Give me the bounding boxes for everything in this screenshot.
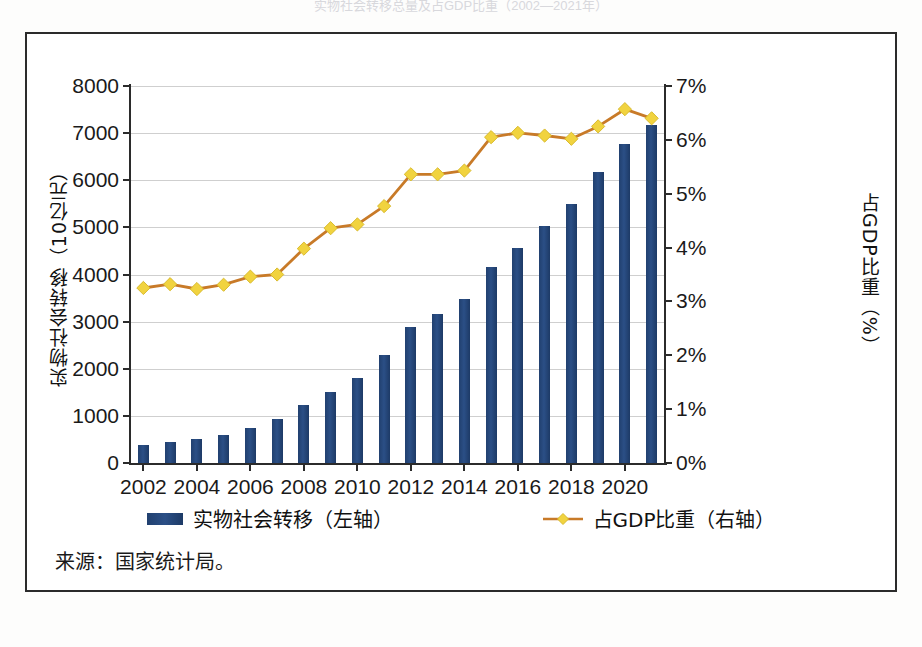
bar [272,419,283,463]
bar [325,392,336,463]
right-axis-label: 0% [676,451,706,475]
x-axis-tick [624,463,626,471]
left-axis-title: 实物社会转移（10亿元） [45,86,71,463]
gridline [130,275,665,276]
bar-swatch-icon [147,513,183,525]
right-axis-spine [664,84,666,464]
left-axis-title-text: 实物社会转移（10亿元） [45,161,72,387]
gridline [130,416,665,417]
legend-item-line: 占GDP比重（右轴） [543,504,776,533]
gridline [130,322,665,323]
right-axis-title-text: 占GDP比重（%） [857,193,884,356]
left-axis-label: 6000 [72,168,119,192]
left-axis-tick [123,226,130,228]
right-axis-tick [665,193,672,195]
bar [165,442,176,463]
x-axis-tick [356,463,358,471]
gridline [130,369,665,370]
x-axis-label: 2020 [602,475,649,499]
left-axis-label: 5000 [72,215,119,239]
right-axis-label: 6% [676,128,706,152]
bottom-axis-spine [129,463,667,465]
bar [138,445,149,463]
left-axis-tick [123,274,130,276]
left-axis-tick [123,179,130,181]
right-axis-tick [665,354,672,356]
left-axis-label: 7000 [72,121,119,145]
left-axis-label: 1000 [72,404,119,428]
x-axis-label: 2002 [120,475,167,499]
left-axis-label: 4000 [72,263,119,287]
x-axis-tick [517,463,519,471]
bar [646,125,657,463]
right-axis-tick [665,462,672,464]
right-axis-title: 占GDP比重（%） [857,86,883,463]
x-axis-tick [142,463,144,471]
chart-legend: 实物社会转移（左轴） 占GDP比重（右轴） [27,504,895,533]
bar [512,248,523,463]
gridline [130,133,665,134]
bar [405,327,416,463]
bar [619,144,630,464]
right-axis-label: 5% [676,182,706,206]
right-axis-tick [665,247,672,249]
page-root: 实物社会转移总量及占GDP比重（2002—2021年） 实物社会转移（10亿元）… [0,0,922,647]
bar [379,355,390,463]
x-axis-tick [303,463,305,471]
bar [486,267,497,464]
right-axis-label: 2% [676,343,706,367]
left-axis-tick [123,85,130,87]
x-axis-label: 2008 [281,475,328,499]
bar [539,226,550,463]
figure-inner: 实物社会转移（10亿元） 占GDP比重（%） 01000200030004000… [27,34,895,590]
plot-area: 0100020003000400050006000700080000%1%2%3… [130,86,665,463]
line-marker-swatch-icon [543,512,583,526]
bar [218,435,229,463]
left-axis-tick [123,321,130,323]
gridline [130,227,665,228]
left-axis-label: 8000 [72,74,119,98]
x-axis-label: 2006 [227,475,274,499]
bar [191,439,202,463]
bar [593,172,604,463]
right-axis-tick [665,139,672,141]
left-axis-tick [123,462,130,464]
source-note: 来源：国家统计局。 [55,546,235,575]
right-axis-label: 7% [676,74,706,98]
x-axis-label: 2004 [174,475,221,499]
right-axis-label: 3% [676,289,706,313]
right-axis-tick [665,300,672,302]
left-axis-label: 2000 [72,357,119,381]
legend-item-bar: 实物社会转移（左轴） [147,504,393,533]
legend-label-bar: 实物社会转移（左轴） [193,504,393,533]
x-axis-label: 2018 [548,475,595,499]
bar [298,405,309,463]
left-axis-label: 3000 [72,310,119,334]
right-axis-label: 1% [676,397,706,421]
x-axis-label: 2010 [334,475,381,499]
bar [352,378,363,463]
x-axis-tick [410,463,412,471]
bar [459,299,470,464]
figure-title-cropped: 实物社会转移总量及占GDP比重（2002—2021年） [0,0,922,12]
x-axis-label: 2016 [495,475,542,499]
left-axis-label: 0 [107,451,119,475]
bar [432,314,443,463]
gridline [130,86,665,87]
left-axis-tick [123,415,130,417]
bar [245,428,256,463]
left-axis-tick [123,132,130,134]
right-axis-tick [665,408,672,410]
right-axis-tick [665,85,672,87]
figure-frame: 实物社会转移（10亿元） 占GDP比重（%） 01000200030004000… [25,32,897,592]
bar [566,204,577,463]
legend-label-line: 占GDP比重（右轴） [593,504,776,533]
left-axis-tick [123,368,130,370]
x-axis-tick [463,463,465,471]
x-axis-tick [570,463,572,471]
x-axis-label: 2014 [441,475,488,499]
right-axis-label: 4% [676,236,706,260]
x-axis-label: 2012 [388,475,435,499]
x-axis-tick [196,463,198,471]
x-axis-tick [249,463,251,471]
